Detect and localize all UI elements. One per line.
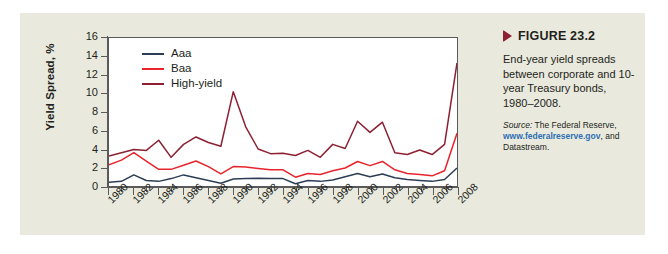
legend-item-aaa: Aaa (142, 46, 222, 61)
series-line-baa (109, 133, 457, 177)
legend-label: High-yield (171, 77, 222, 90)
chart-legend: AaaBaaHigh-yield (142, 46, 222, 91)
y-tick-label: 0 (70, 181, 98, 192)
source-link[interactable]: www.federalreserve.gov (503, 131, 600, 141)
y-tick-label: 16 (70, 31, 98, 42)
y-tick-label: 8 (70, 106, 98, 117)
figure-heading: FIGURE 23.2 (503, 29, 638, 43)
legend-item-baa: Baa (142, 61, 222, 76)
figure-page: Yield Spread, % 0246810121416 1980198219… (0, 0, 668, 254)
y-tick (101, 56, 107, 57)
y-axis-title: Yield Spread, % (44, 31, 56, 143)
figure-source-note: Source: The Federal Reserve, www.federal… (503, 120, 638, 153)
figure-panel: Yield Spread, % 0246810121416 1980198219… (20, 13, 645, 235)
y-tick (101, 93, 107, 94)
figure-number-title: FIGURE 23.2 (518, 29, 595, 43)
figure-caption-text: End-year yield spreads between corporate… (503, 52, 638, 110)
triangle-right-icon (503, 30, 512, 42)
y-tick-label: 6 (70, 125, 98, 136)
y-tick-label: 10 (70, 87, 98, 98)
legend-label: Aaa (171, 47, 191, 60)
chart-area: Yield Spread, % 0246810121416 1980198219… (20, 13, 490, 235)
y-tick (101, 131, 107, 132)
source-publisher: The Federal Reserve, (532, 120, 616, 130)
legend-swatch (142, 53, 164, 55)
legend-item-high-yield: High-yield (142, 76, 222, 91)
y-tick (101, 150, 107, 151)
x-tick-label: 2008 (455, 180, 480, 205)
legend-swatch (142, 68, 164, 70)
y-tick-label: 4 (70, 144, 98, 155)
source-label: Source: (503, 120, 532, 130)
y-tick-label: 12 (70, 69, 98, 80)
legend-swatch (142, 83, 164, 85)
y-tick (101, 75, 107, 76)
y-tick (101, 37, 107, 38)
figure-caption-column: FIGURE 23.2 End-year yield spreads betwe… (503, 29, 638, 153)
y-tick-label: 2 (70, 162, 98, 173)
legend-label: Baa (171, 62, 191, 75)
y-tick-label: 14 (70, 50, 98, 61)
y-tick (101, 168, 107, 169)
y-tick (101, 112, 107, 113)
